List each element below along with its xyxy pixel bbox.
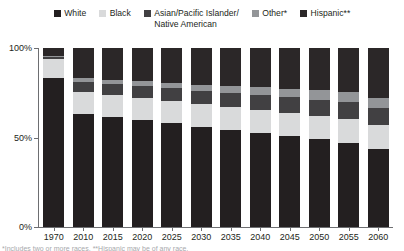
stacked-bar [279, 48, 300, 227]
bar-column: 2025 [157, 48, 187, 227]
x-axis-tick [142, 227, 143, 231]
bar-group: 1970201020152020202520302035204020452050… [39, 48, 393, 227]
x-axis-tick [349, 227, 350, 231]
bar-segment [368, 48, 389, 98]
bar-segment [102, 117, 123, 227]
bar-column: 2040 [246, 48, 276, 227]
y-axis-tick [34, 48, 38, 49]
bar-segment [43, 59, 64, 78]
legend-item: Asian/Pacific Islander/ Native American [144, 8, 239, 30]
bar-segment [132, 48, 153, 81]
chart-legend: WhiteBlackAsian/Pacific Islander/ Native… [0, 8, 404, 30]
bar-column: 2050 [305, 48, 335, 227]
bar-segment [250, 110, 271, 133]
chart-footnote: *Includes two or more races. **Hispanic … [2, 245, 188, 251]
y-axis-tick [34, 227, 38, 228]
bar-segment [368, 98, 389, 108]
bar-segment [338, 143, 359, 227]
bar-segment [309, 48, 330, 90]
x-axis-line [38, 227, 393, 228]
stacked-bar [309, 48, 330, 227]
x-axis-tick [260, 227, 261, 231]
x-axis-label: 2060 [368, 232, 388, 242]
bar-segment [279, 48, 300, 89]
bar-column: 2015 [98, 48, 128, 227]
bar-segment [43, 48, 64, 56]
legend-item-label: White [64, 8, 86, 19]
square-swatch-icon [99, 10, 106, 17]
bar-segment [368, 125, 389, 149]
bar-segment [250, 87, 271, 95]
stacked-bar [250, 48, 271, 227]
bar-segment [161, 88, 182, 101]
square-swatch-icon [300, 10, 307, 17]
bar-segment [279, 97, 300, 113]
legend-item: Hispanic** [300, 8, 350, 19]
x-axis-label: 1970 [44, 232, 64, 242]
legend-item-label: Black [110, 8, 131, 19]
bar-column: 1970 [39, 48, 69, 227]
stacked-bar [191, 48, 212, 227]
bar-segment [338, 48, 359, 92]
bar-segment [102, 84, 123, 95]
bar-segment [191, 48, 212, 85]
bar-segment [250, 48, 271, 87]
stacked-bar [102, 48, 123, 227]
bar-segment [161, 123, 182, 227]
bar-segment [191, 127, 212, 227]
legend-item-label: Other* [262, 8, 287, 19]
bar-segment [73, 48, 94, 78]
x-axis-label: 2025 [162, 232, 182, 242]
bar-segment [73, 114, 94, 227]
bar-segment [161, 48, 182, 83]
x-axis-label: 2020 [132, 232, 152, 242]
legend-item-label: Hispanic** [311, 8, 351, 19]
bar-segment [132, 120, 153, 227]
stacked-bar [368, 48, 389, 227]
bar-segment [161, 101, 182, 123]
bar-segment [43, 78, 64, 227]
x-axis-tick [378, 227, 379, 231]
bar-segment [279, 89, 300, 98]
bar-segment [132, 86, 153, 98]
bar-column: 2055 [334, 48, 364, 227]
x-axis-tick [290, 227, 291, 231]
stacked-bar [161, 48, 182, 227]
square-swatch-icon [252, 10, 259, 17]
bar-column: 2060 [364, 48, 394, 227]
bar-column: 2010 [69, 48, 99, 227]
stacked-bar [73, 48, 94, 227]
bar-segment [338, 119, 359, 142]
bar-segment [102, 48, 123, 80]
legend-item: White [54, 8, 86, 19]
legend-item: Black [99, 8, 131, 19]
x-axis-tick [319, 227, 320, 231]
stacked-bar [132, 48, 153, 227]
bar-segment [250, 133, 271, 227]
bar-segment [220, 86, 241, 93]
legend-item-label: Asian/Pacific Islander/ Native American [154, 8, 239, 30]
x-axis-label: 2015 [103, 232, 123, 242]
stacked-bar [338, 48, 359, 227]
bar-segment [102, 95, 123, 117]
bar-segment [73, 82, 94, 92]
x-axis-label: 2040 [250, 232, 270, 242]
bar-segment [279, 136, 300, 227]
stacked-bar [43, 48, 64, 227]
y-axis-label: 0% [19, 222, 32, 232]
x-axis-label: 2035 [221, 232, 241, 242]
stacked-bar [220, 48, 241, 227]
y-axis-label: 50% [14, 133, 32, 143]
x-axis-tick [231, 227, 232, 231]
x-axis-label: 2045 [280, 232, 300, 242]
bar-segment [338, 92, 359, 102]
legend-item: Other* [252, 8, 287, 19]
bar-segment [220, 93, 241, 107]
bar-segment [220, 48, 241, 86]
bar-segment [132, 98, 153, 120]
x-axis-tick [113, 227, 114, 231]
x-axis-tick [54, 227, 55, 231]
bar-segment [309, 139, 330, 227]
bar-column: 2030 [187, 48, 217, 227]
x-axis-label: 2030 [191, 232, 211, 242]
